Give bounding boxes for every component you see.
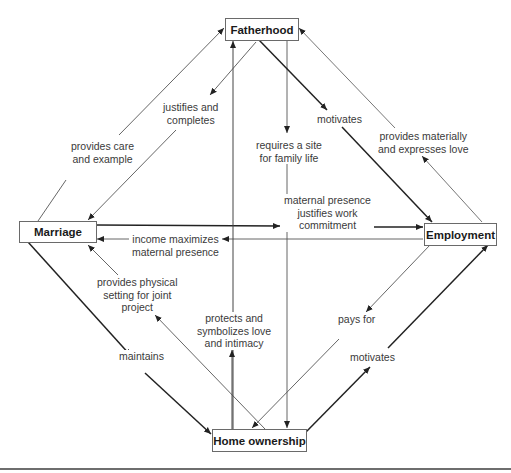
label-line: requires a site [256,139,322,152]
edge-home-to-employment [306,367,370,432]
node-marriage-label: Marriage [34,226,82,238]
node-employment: Employment [424,223,497,246]
edge-employment-to-fatherhood [422,156,482,222]
label-line: protects and [197,312,271,325]
edge-marriage-to-fatherhood [38,180,66,221]
label-provides-care: provides care and example [70,140,135,165]
node-marriage: Marriage [19,221,97,243]
label-line: setting for joint [97,289,178,302]
edge-marriage-to-employment [96,225,280,226]
node-home-ownership: Home ownership [212,429,307,452]
label-maintains: maintains [118,350,165,363]
label-provides-materially: provides materially and expresses love [377,130,469,155]
node-fatherhood: Fatherhood [225,18,299,41]
label-line: and example [71,153,134,166]
label-line: pays for [338,313,375,326]
node-fatherhood-label: Fatherhood [230,24,293,36]
node-employment-label: Employment [426,229,495,241]
label-motivates-bottom: motivates [349,351,396,364]
label-motivates-top: motivates [316,113,363,126]
label-requires-site: requires a site for family life [255,139,323,164]
label-line: provides care [71,140,134,153]
label-line: maternal presence [132,246,219,259]
label-line: completes [163,114,218,127]
label-line: maternal presence [284,194,371,207]
label-line: commitment [284,219,371,232]
label-protects-symbolizes: protects and symbolizes love and intimac… [196,312,272,350]
label-line: project [97,301,178,314]
label-line: and expresses love [378,143,468,156]
label-line: symbolizes love [197,325,271,338]
bottom-rule [0,468,511,470]
label-income-maximizes: income maximizes maternal presence [131,233,220,258]
label-line: maintains [119,350,164,363]
label-line: motivates [350,351,395,364]
label-pays-for: pays for [337,313,376,326]
label-justifies-completes: justifies and completes [162,101,219,126]
label-line: provides materially [378,130,468,143]
label-provides-physical: provides physical setting for joint proj… [96,276,179,314]
label-line: and intimacy [197,337,271,350]
label-line: justifies and [163,101,218,114]
label-maternal-presence-justifies: maternal presence justifies work commitm… [283,194,372,232]
label-line: provides physical [97,276,178,289]
label-line: motivates [317,113,362,126]
node-home-ownership-label: Home ownership [213,435,306,447]
label-line: for family life [256,152,322,165]
edge-employment-to-home [366,245,430,312]
label-line: justifies work [284,207,371,220]
label-line: income maximizes [132,233,219,246]
edge-fatherhood-to-employment [259,40,327,110]
